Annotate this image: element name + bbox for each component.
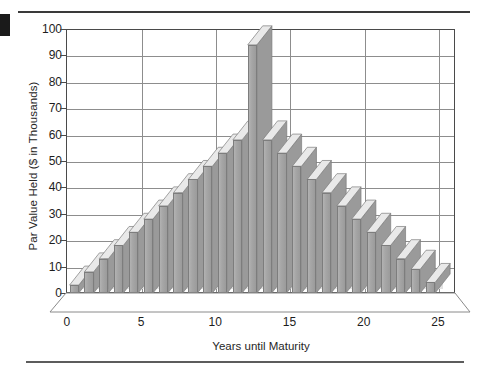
bar-front-face [322,193,331,293]
bar-front-face [218,153,227,293]
x-axis-ticks: 0510152025 [0,316,478,336]
bar-front-face [367,232,376,293]
bar-front-face [263,140,272,293]
bar-shadow [434,272,443,289]
bar-front-face [173,193,182,293]
x-tick-label: 5 [138,316,145,328]
bar-front-face [70,285,79,293]
bar-front-face [203,166,212,293]
bar-front-face [381,245,390,293]
bar-front-face [114,245,123,293]
bar-front-face [411,269,420,293]
x-tick-label: 10 [209,316,222,328]
x-axis-label: Years until Maturity [66,340,456,352]
bar-front-face [337,206,346,293]
bar-front-face [129,232,138,293]
bar-front-face [188,179,197,293]
bar-front-face [307,179,316,293]
bar-front-face [99,259,108,293]
bar-front-face [248,45,257,293]
figure-page: Par Value Held ($ in Thousands) 01020304… [0,0,478,375]
bar-front-face [292,166,301,293]
bar-front-face [84,272,93,293]
x-tick-label: 20 [357,316,370,328]
bar-front-face [396,259,405,293]
bar-front-face [144,219,153,293]
bar-front-face [233,140,242,293]
x-tick-label: 25 [431,316,444,328]
x-tick-label: 0 [63,316,70,328]
bar-front-face [426,282,435,293]
bar-front-face [159,206,168,293]
bar-front-face [277,153,286,293]
bar-chart-figure: Par Value Held ($ in Thousands) 01020304… [0,0,478,375]
x-tick-label: 15 [283,316,296,328]
bar-front-face [352,219,361,293]
